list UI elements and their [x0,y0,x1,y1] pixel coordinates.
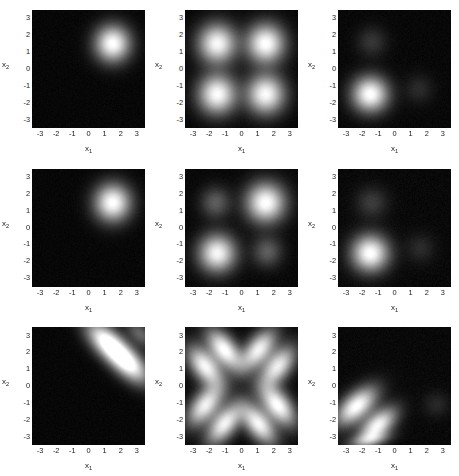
heatmap-panel-r1-c2: 3210-1-2-3-3-2-10123x2x1 [306,159,459,318]
heatmap-canvas [185,10,298,128]
x-axis-label: x1 [185,461,298,471]
y-tick-label: -2 [18,257,30,265]
x-tick-label: 0 [235,446,249,455]
y-tick-label: 0 [18,224,30,232]
y-tick-label: -2 [171,416,183,424]
x-tick-label: -3 [339,129,353,138]
x-axis-label: x1 [32,144,145,154]
heatmap-panel-r0-c0: 3210-1-2-3-3-2-10123x2x1 [0,0,153,159]
x-axis-ticks: -3-2-10123 [32,446,145,458]
x-tick-label: -1 [218,129,232,138]
y-axis-ticks: 3210-1-2-3 [14,169,30,287]
y-tick-label: 0 [18,65,30,73]
y-tick-label: -1 [324,399,336,407]
y-tick-label: -2 [324,416,336,424]
x-tick-label: 1 [251,446,265,455]
x-axis-label: x1 [338,461,451,471]
plot-area [185,10,298,128]
x-tick-label: 0 [235,288,249,297]
y-axis-ticks: 3210-1-2-3 [167,327,183,445]
y-tick-label: 3 [171,332,183,340]
y-tick-label: 3 [171,173,183,181]
y-tick-label: 2 [324,348,336,356]
heatmap-canvas [338,10,451,128]
y-axis-ticks: 3210-1-2-3 [14,10,30,128]
y-tick-label: 2 [171,348,183,356]
plot-area [32,169,145,287]
x-tick-label: -2 [49,288,63,297]
y-tick-label: 2 [18,190,30,198]
x-axis-label: x1 [338,144,451,154]
x-axis-ticks: -3-2-10123 [185,446,298,458]
y-axis-label: x2 [2,377,9,387]
heatmap-panel-r0-c2: 3210-1-2-3-3-2-10123x2x1 [306,0,459,159]
x-axis-ticks: -3-2-10123 [185,129,298,141]
x-tick-label: -2 [49,129,63,138]
y-tick-label: 2 [324,31,336,39]
x-tick-label: -1 [371,446,385,455]
y-tick-label: 1 [18,48,30,56]
heatmap-canvas [185,327,298,445]
x-tick-label: 0 [388,288,402,297]
y-tick-label: -3 [18,116,30,124]
plot-area [32,327,145,445]
heatmap-panel-r2-c0: 3210-1-2-3-3-2-10123x2x1 [0,317,153,476]
x-tick-label: -2 [49,446,63,455]
x-tick-label: 0 [388,129,402,138]
y-tick-label: -3 [18,274,30,282]
x-tick-label: -3 [186,446,200,455]
y-axis-label: x2 [155,60,162,70]
x-tick-label: 2 [267,129,281,138]
x-tick-label: -1 [65,129,79,138]
y-tick-label: 1 [324,48,336,56]
y-axis-label: x2 [308,219,315,229]
x-tick-label: -2 [355,129,369,138]
y-axis-ticks: 3210-1-2-3 [320,327,336,445]
y-tick-label: -3 [324,116,336,124]
y-tick-label: 0 [324,224,336,232]
y-tick-label: -1 [171,399,183,407]
y-tick-label: -2 [324,99,336,107]
x-tick-label: -1 [371,129,385,138]
y-tick-label: 3 [324,332,336,340]
x-tick-label: -2 [355,288,369,297]
x-axis-ticks: -3-2-10123 [338,288,451,300]
figure-panel-grid: 3210-1-2-3-3-2-10123x2x13210-1-2-3-3-2-1… [0,0,459,476]
y-axis-ticks: 3210-1-2-3 [320,10,336,128]
x-tick-label: 0 [388,446,402,455]
x-tick-label: 0 [82,446,96,455]
x-tick-label: 1 [251,129,265,138]
plot-area [185,169,298,287]
y-tick-label: -1 [18,82,30,90]
x-tick-label: 1 [404,446,418,455]
y-tick-label: 0 [324,65,336,73]
x-axis-label: x1 [32,461,145,471]
x-axis-ticks: -3-2-10123 [185,288,298,300]
x-tick-label: 1 [98,446,112,455]
y-tick-label: 2 [18,31,30,39]
x-tick-label: -3 [186,288,200,297]
y-axis-label: x2 [155,219,162,229]
y-axis-ticks: 3210-1-2-3 [167,169,183,287]
x-tick-label: 2 [267,288,281,297]
x-tick-label: -1 [218,288,232,297]
x-tick-label: -2 [202,288,216,297]
y-tick-label: 0 [324,382,336,390]
heatmap-canvas [338,327,451,445]
y-tick-label: -2 [171,99,183,107]
x-axis-label: x1 [338,303,451,313]
x-tick-label: 1 [98,288,112,297]
y-axis-ticks: 3210-1-2-3 [320,169,336,287]
x-tick-label: 1 [251,288,265,297]
x-axis-label: x1 [185,144,298,154]
x-tick-label: 0 [235,129,249,138]
y-tick-label: -3 [171,433,183,441]
x-tick-label: 3 [283,288,297,297]
y-tick-label: 2 [171,190,183,198]
y-axis-label: x2 [308,377,315,387]
y-axis-ticks: 3210-1-2-3 [14,327,30,445]
y-tick-label: -1 [324,240,336,248]
y-tick-label: 3 [18,173,30,181]
x-tick-label: 2 [267,446,281,455]
x-tick-label: 2 [420,129,434,138]
